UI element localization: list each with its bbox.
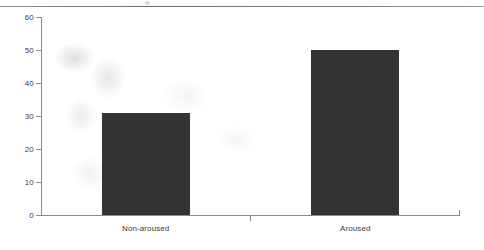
y-axis-tick-label: 50 <box>25 46 34 55</box>
y-axis-tick-label: 60 <box>25 13 34 22</box>
x-axis-category-separator <box>250 216 251 221</box>
plot-area <box>41 17 460 215</box>
x-axis-category-label: Aroused <box>340 224 371 233</box>
y-axis-tick-label: 0 <box>29 211 34 220</box>
y-axis-tick-label: 20 <box>25 145 34 154</box>
x-axis-category-label: Non-aroused <box>122 224 169 233</box>
bar <box>102 113 190 215</box>
y-axis-tick-label: 30 <box>25 112 34 121</box>
bar-chart: 0102030405060 Non-arousedAroused <box>0 0 484 250</box>
y-axis-tick-label: 10 <box>25 178 34 187</box>
y-axis-tick-label: 40 <box>25 79 34 88</box>
bar <box>311 50 399 215</box>
